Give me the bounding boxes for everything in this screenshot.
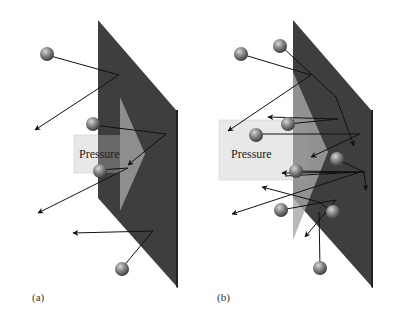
panel-b: Pressure (b) — [217, 20, 373, 304]
molecule — [289, 164, 303, 178]
gas-pressure-figure: Pressure (a) Pressure — [0, 0, 400, 324]
wall-edge — [371, 110, 373, 288]
panel-a: Pressure (a) — [32, 20, 178, 304]
molecule — [274, 203, 288, 217]
molecule — [86, 117, 100, 131]
molecule — [93, 164, 107, 178]
molecule — [249, 128, 263, 142]
pressure-label-a: Pressure — [79, 147, 120, 161]
molecule — [330, 152, 344, 166]
molecule — [281, 117, 295, 131]
molecule — [326, 205, 340, 219]
wall-edge — [176, 110, 178, 288]
molecule — [40, 47, 54, 61]
molecule — [234, 47, 248, 61]
molecule — [313, 261, 327, 275]
panel-caption-a: (a) — [32, 291, 45, 304]
molecule — [273, 39, 287, 53]
pressure-label-b: Pressure — [231, 147, 272, 161]
molecule — [115, 262, 129, 276]
panel-caption-b: (b) — [217, 291, 230, 304]
